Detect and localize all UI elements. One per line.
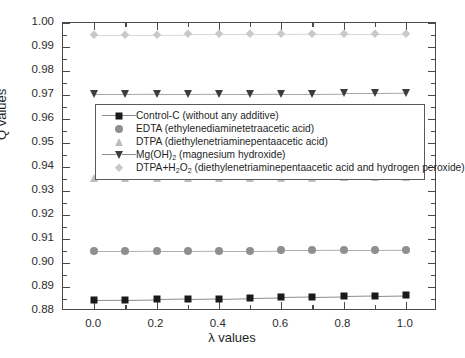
legend-line-right	[122, 154, 136, 155]
marker-triangle-up	[115, 138, 123, 146]
y-tick-label: 0.89	[12, 280, 54, 292]
marker-triangle-down	[115, 151, 123, 159]
x-tick-label: 0.4	[196, 318, 240, 330]
legend-key	[102, 109, 136, 122]
legend-label: Mg(OH)2 (magnesium hydroxide)	[136, 148, 286, 162]
x-axis-title: λ values	[0, 330, 464, 345]
marker-diamond	[401, 30, 410, 39]
y-tick-label: 0.95	[12, 136, 54, 148]
marker-diamond	[277, 30, 286, 39]
y-tick-label: 0.97	[12, 88, 54, 100]
legend-label: EDTA (ethylenediaminetetraacetic acid)	[136, 122, 314, 135]
legend-key	[102, 161, 136, 174]
y-tick-label: 0.98	[12, 64, 54, 76]
marker-diamond	[339, 30, 348, 39]
legend-item[interactable]: DTPA (diethylenetriaminepentaacetic acid…	[102, 135, 418, 148]
x-tick-label: 0.6	[258, 318, 302, 330]
y-axis-title: Q values	[0, 89, 9, 140]
legend-item[interactable]: DTPA+H2O2 (diethylenetriaminepentaacetic…	[102, 161, 418, 174]
marker-diamond	[121, 30, 130, 39]
y-tick-label: 0.94	[12, 160, 54, 172]
y-tick-label: 0.88	[12, 304, 54, 316]
chart-legend: Control-C (without any additive)EDTA (et…	[95, 104, 425, 180]
legend-item[interactable]: EDTA (ethylenediaminetetraacetic acid)	[102, 122, 418, 135]
y-tick-label: 0.92	[12, 208, 54, 220]
y-tick-label: 1.00	[12, 16, 54, 28]
legend-label: DTPA (diethylenetriaminepentaacetic acid…	[136, 135, 328, 148]
y-tick-label: 0.99	[12, 40, 54, 52]
x-tick-label: 1.0	[383, 318, 427, 330]
y-tick-label: 0.91	[12, 232, 54, 244]
legend-item[interactable]: Mg(OH)2 (magnesium hydroxide)	[102, 148, 418, 161]
marker-diamond	[214, 30, 223, 39]
legend-key	[102, 148, 136, 161]
legend-label: Control-C (without any additive)	[136, 109, 279, 122]
y-tick-label: 0.96	[12, 112, 54, 124]
marker-square	[116, 112, 123, 119]
marker-diamond	[245, 30, 254, 39]
legend-item[interactable]: Control-C (without any additive)	[102, 109, 418, 122]
marker-diamond	[114, 163, 123, 172]
legend-label: DTPA+H2O2 (diethylenetriaminepentaacetic…	[136, 161, 465, 175]
y-tick-label: 0.90	[12, 256, 54, 268]
legend-line-left	[102, 115, 116, 116]
legend-key	[102, 122, 136, 135]
y-tick-label: 0.93	[12, 184, 54, 196]
marker-diamond	[370, 30, 379, 39]
legend-line-left	[102, 154, 116, 155]
marker-diamond	[308, 30, 317, 39]
marker-diamond	[183, 30, 192, 39]
x-tick-label: 0.2	[134, 318, 178, 330]
x-tick-label: 0.0	[71, 318, 115, 330]
marker-diamond	[90, 30, 99, 39]
x-tick-label: 0.8	[321, 318, 365, 330]
marker-circle	[115, 125, 123, 133]
legend-key	[102, 135, 136, 148]
marker-diamond	[152, 30, 161, 39]
legend-line-right	[122, 115, 136, 116]
